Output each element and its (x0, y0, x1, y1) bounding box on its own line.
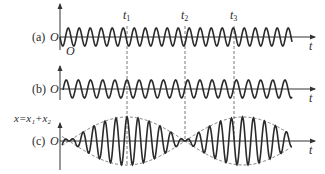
origin-sub-label: O (66, 45, 75, 57)
origin-label-c: O (50, 135, 59, 147)
beats-diagram (0, 0, 325, 174)
panel-label-c: (c) (32, 135, 45, 147)
origin-label-b: O (50, 83, 59, 95)
marker-label-t1: t1 (123, 9, 130, 25)
t-label-a: t (309, 40, 312, 52)
panel-label-a: (a) (32, 31, 45, 43)
t-label-b: t (309, 92, 312, 104)
marker-label-t3: t3 (230, 9, 237, 25)
origin-label-a: O (50, 31, 59, 43)
marker-label-t2: t2 (181, 9, 188, 25)
y-axis-label-c: x=x₁+x₂ (14, 112, 51, 124)
t-label-c: t (309, 144, 312, 156)
panel-label-b: (b) (32, 83, 46, 95)
